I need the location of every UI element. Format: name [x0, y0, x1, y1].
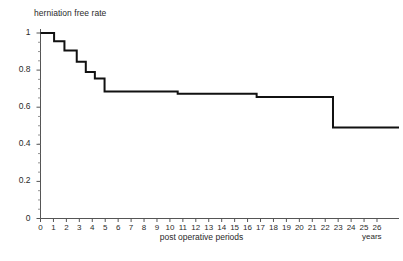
x-axis-tick-label: 23 [331, 223, 345, 232]
x-axis-tick-label: 3 [72, 223, 86, 232]
x-axis-tick-label: 0 [34, 223, 48, 232]
y-axis-tick-label: 1 [9, 27, 31, 37]
x-axis-tick-label: 9 [150, 223, 164, 232]
x-axis-tick-label: 20 [292, 223, 306, 232]
x-axis-tick-marks [41, 219, 377, 223]
x-axis-tick-label: 16 [241, 223, 255, 232]
y-axis-tick-marks [37, 33, 41, 219]
x-axis-tick-label: 7 [124, 223, 138, 232]
x-axis-title: post operative periods [0, 232, 403, 242]
x-axis-tick-label: 26 [370, 223, 384, 232]
x-axis-tick-label: 1 [46, 223, 60, 232]
y-axis-tick-label: 0.8 [9, 64, 31, 74]
x-axis-tick-label: 18 [266, 223, 280, 232]
x-axis-tick-label: 14 [215, 223, 229, 232]
x-axis-unit-label: years [362, 232, 382, 241]
y-axis-tick-label: 0.4 [9, 138, 31, 148]
x-axis-tick-label: 25 [357, 223, 371, 232]
x-axis-tick-label: 22 [318, 223, 332, 232]
x-axis-tick-label: 10 [163, 223, 177, 232]
x-axis-tick-label: 8 [137, 223, 151, 232]
x-axis-tick-label: 17 [254, 223, 268, 232]
x-axis-tick-label: 13 [202, 223, 216, 232]
x-axis-tick-label: 19 [279, 223, 293, 232]
x-axis-tick-label: 2 [59, 223, 73, 232]
chart-figure: herniation free rate 00.20.40.60.81 0123… [0, 0, 403, 261]
x-axis-tick-label: 21 [305, 223, 319, 232]
y-axis-tick-label: 0.6 [9, 101, 31, 111]
x-axis-tick-label: 6 [111, 223, 125, 232]
x-axis-tick-label: 12 [189, 223, 203, 232]
x-axis-tick-label: 24 [344, 223, 358, 232]
x-axis-tick-label: 11 [176, 223, 190, 232]
x-axis-tick-label: 4 [85, 223, 99, 232]
step-curve-series-herniation-free-rate [41, 33, 400, 128]
chart-axes [41, 29, 400, 219]
y-axis-tick-label: 0 [9, 213, 31, 223]
x-axis-tick-label: 5 [98, 223, 112, 232]
y-axis-tick-label: 0.2 [9, 175, 31, 185]
x-axis-tick-label: 15 [228, 223, 242, 232]
